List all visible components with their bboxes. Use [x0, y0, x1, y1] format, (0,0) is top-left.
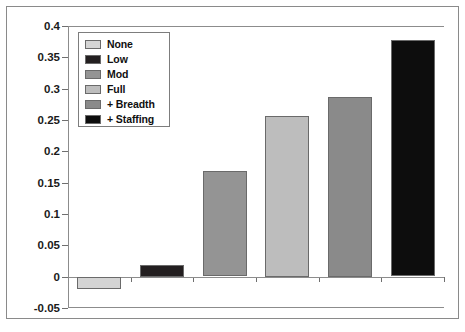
y-axis-tick	[62, 151, 68, 152]
y-axis-label: 0.25	[2, 120, 60, 121]
legend-label: Mod	[107, 68, 128, 80]
chart-legend: NoneLowModFull+ Breadth+ Staffing	[78, 32, 170, 127]
bar-low	[140, 265, 184, 277]
legend-label: None	[107, 38, 133, 50]
legend-label: Full	[107, 83, 125, 95]
y-axis-tick	[62, 183, 68, 184]
bar-none	[77, 277, 121, 289]
legend-item-full: Full	[85, 82, 164, 96]
legend-item-breadth: + Breadth	[85, 97, 164, 111]
legend-swatch-icon	[85, 100, 101, 109]
legend-swatch-icon	[85, 70, 101, 79]
y-axis-label: 0.2	[2, 151, 60, 152]
y-axis-label: 0.15	[2, 183, 60, 184]
bar-staffing	[391, 40, 435, 276]
y-axis-label: 0.05	[2, 245, 60, 246]
plot-top-line	[68, 26, 444, 27]
y-axis-tick	[62, 120, 68, 121]
y-axis-tick	[62, 245, 68, 246]
y-axis-label: 0.1	[2, 214, 60, 215]
bar-breadth	[328, 97, 372, 277]
legend-swatch-icon	[85, 115, 101, 124]
legend-label: + Breadth	[107, 98, 155, 110]
y-axis-label: -0.05	[2, 308, 60, 309]
x-axis-tick	[444, 277, 445, 282]
y-axis-label: 0.35	[2, 57, 60, 58]
y-axis-tick	[62, 214, 68, 215]
y-axis-label: 0.3	[2, 89, 60, 90]
legend-item-low: Low	[85, 52, 164, 66]
legend-item-staffing: + Staffing	[85, 112, 164, 126]
bar-full	[265, 116, 309, 277]
legend-swatch-icon	[85, 85, 101, 94]
y-axis-tick	[62, 89, 68, 90]
bar-chart-figure: 0.40.350.30.250.20.150.10.050-0.05 NoneL…	[0, 0, 465, 332]
legend-item-none: None	[85, 37, 164, 51]
legend-item-mod: Mod	[85, 67, 164, 81]
y-axis-label: 0.4	[2, 26, 60, 27]
bar-mod	[203, 171, 247, 276]
y-axis-tick	[62, 57, 68, 58]
zero-baseline	[68, 277, 444, 278]
y-axis-label: 0	[2, 277, 60, 278]
legend-swatch-icon	[85, 55, 101, 64]
y-axis-tick	[62, 308, 68, 309]
y-axis-tick	[62, 26, 68, 27]
legend-label: Low	[107, 53, 128, 65]
legend-label: + Staffing	[107, 113, 154, 125]
legend-swatch-icon	[85, 40, 101, 49]
